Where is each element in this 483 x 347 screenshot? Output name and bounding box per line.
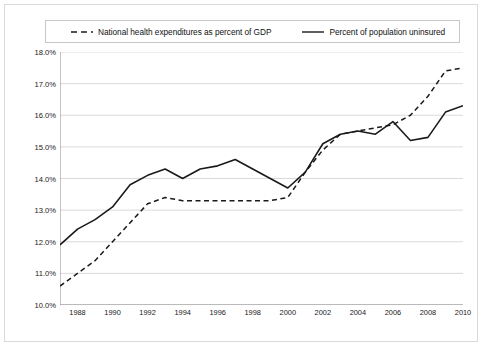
y-tick-label: 16.0% [20, 111, 56, 120]
y-tick-label: 11.0% [20, 269, 56, 278]
x-tick-label: 1998 [245, 308, 261, 317]
x-tick-label: 1996 [209, 308, 225, 317]
y-tick-label: 14.0% [20, 174, 56, 183]
chart-figure: National health expenditures as percent … [0, 0, 483, 347]
x-tick-label: 2004 [350, 308, 366, 317]
series-line-expenditures [60, 68, 463, 286]
x-tick-label: 1994 [174, 308, 190, 317]
gridlines [60, 52, 463, 305]
y-axis-tick-labels: 10.0%11.0%12.0%13.0%14.0%15.0%16.0%17.0%… [18, 52, 56, 305]
y-tick-label: 12.0% [20, 237, 56, 246]
x-tick-label: 2000 [280, 308, 296, 317]
x-axis-tick-labels: 1988199019921994199619982000200220042006… [60, 308, 463, 324]
y-tick-label: 13.0% [20, 206, 56, 215]
x-tick-label: 2002 [315, 308, 331, 317]
y-tick-label: 15.0% [20, 142, 56, 151]
x-tick-label: 1988 [69, 308, 85, 317]
legend-item-expenditures: National health expenditures as percent … [71, 27, 271, 37]
plot-area [60, 52, 463, 305]
chart-legend: National health expenditures as percent … [45, 20, 460, 43]
x-tick-label: 2008 [420, 308, 436, 317]
y-tick-label: 17.0% [20, 79, 56, 88]
x-tick-label: 2010 [455, 308, 471, 317]
legend-item-uninsured: Percent of population uninsured [302, 27, 445, 37]
solid-line-icon [302, 28, 324, 36]
plot-svg [60, 52, 463, 305]
dashed-line-icon [71, 28, 93, 36]
x-tick-label: 2006 [385, 308, 401, 317]
series-line-uninsured [60, 106, 463, 245]
y-tick-label: 18.0% [20, 48, 56, 57]
legend-label-uninsured: Percent of population uninsured [329, 27, 445, 37]
x-tick-label: 1992 [139, 308, 155, 317]
x-tick-label: 1990 [104, 308, 120, 317]
legend-label-expenditures: National health expenditures as percent … [98, 27, 271, 37]
y-tick-label: 10.0% [20, 301, 56, 310]
